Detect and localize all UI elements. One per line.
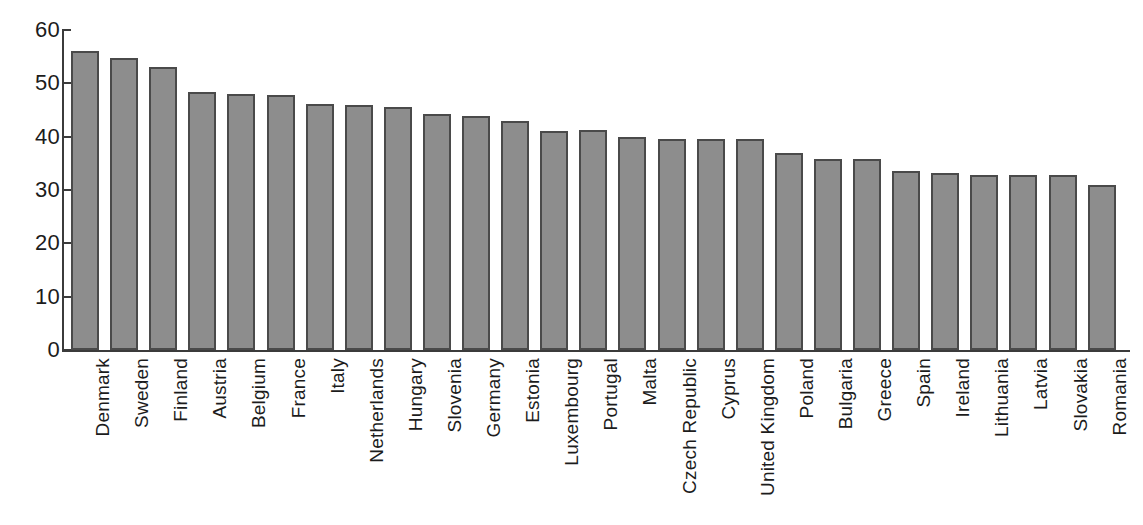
x-tick-label: Czech Republic: [680, 358, 699, 494]
bar: [149, 67, 177, 350]
x-tick-label: France: [289, 358, 308, 418]
bar: [970, 175, 998, 350]
bar: [110, 58, 138, 350]
x-tick-label: Latvia: [1031, 358, 1050, 410]
bar: [384, 107, 412, 350]
bar: [892, 171, 920, 350]
bar: [501, 121, 529, 350]
x-tick-label: Bulgaria: [836, 358, 855, 429]
bar: [306, 104, 334, 350]
x-tick-label: Denmark: [93, 358, 112, 436]
bar: [931, 173, 959, 350]
bar: [814, 159, 842, 350]
x-tick-label: Estonia: [523, 358, 542, 423]
x-tick-label: Poland: [797, 358, 816, 418]
bar: [188, 92, 216, 350]
x-tick-label: Lithuania: [992, 358, 1011, 437]
bar: [71, 51, 99, 350]
x-tick-label: Cyprus: [719, 358, 738, 419]
x-tick-label: Slovenia: [445, 358, 464, 432]
x-tick-label: Hungary: [406, 358, 425, 431]
bar: [1049, 175, 1077, 350]
bar: [1009, 175, 1037, 350]
x-tick-label: Romania: [1110, 358, 1129, 435]
bar: [853, 159, 881, 350]
bar: [775, 153, 803, 350]
bar: [345, 105, 373, 350]
x-tick-label: Ireland: [953, 358, 972, 418]
x-tick-label: Germany: [484, 358, 503, 438]
bar: [618, 137, 646, 350]
bar: [423, 114, 451, 350]
bar-chart: 0102030405060 DenmarkSwedenFinlandAustri…: [0, 0, 1143, 525]
bar: [540, 131, 568, 350]
x-tick-label: Belgium: [249, 358, 268, 428]
bar: [658, 139, 686, 350]
x-tick-label: Sweden: [132, 358, 151, 428]
x-tick-label: Austria: [210, 358, 229, 419]
bar: [736, 139, 764, 350]
x-tick-label: Luxembourg: [562, 358, 581, 466]
bar: [267, 95, 295, 350]
bar: [697, 139, 725, 350]
x-tick-label: Portugal: [601, 358, 620, 430]
x-tick-label: Spain: [914, 358, 933, 408]
x-tick-label: Italy: [328, 358, 347, 394]
x-tick-label: Finland: [171, 358, 190, 422]
bar: [1088, 185, 1116, 350]
x-tick-label: United Kingdom: [758, 358, 777, 496]
x-tick-label: Malta: [640, 358, 659, 405]
x-tick-label: Slovakia: [1071, 358, 1090, 431]
bar: [462, 116, 490, 350]
x-tick-label: Greece: [875, 358, 894, 422]
bar: [579, 130, 607, 350]
bar: [227, 94, 255, 350]
x-tick-label: Netherlands: [367, 358, 386, 463]
